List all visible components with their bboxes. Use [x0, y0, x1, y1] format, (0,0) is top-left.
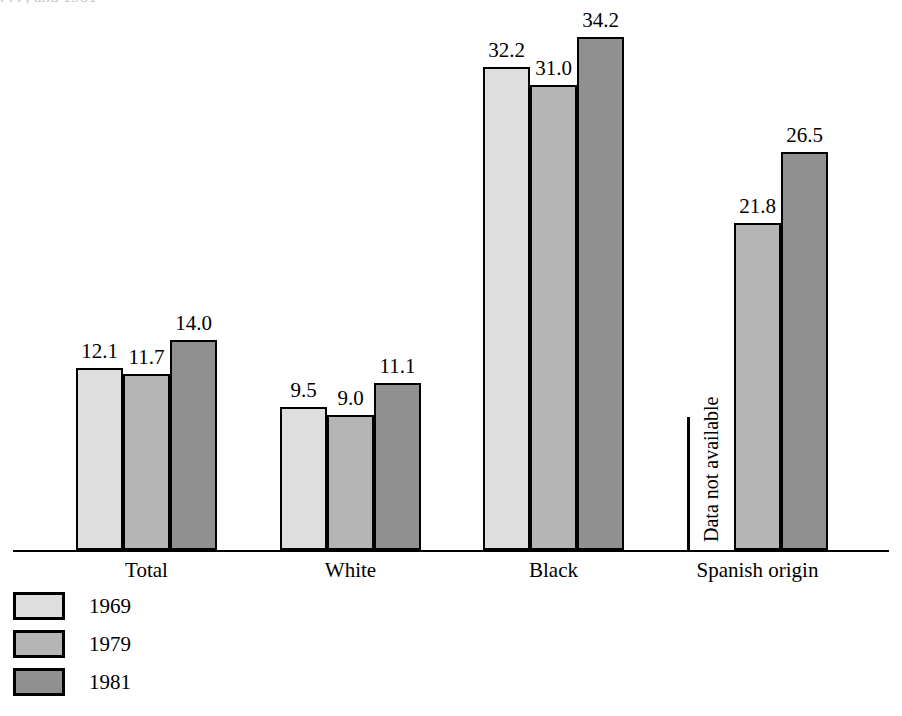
bar-total-1979 [123, 374, 170, 550]
bar-white-1979 [327, 415, 374, 550]
bar-white-1969 [280, 407, 327, 550]
bar-spanish-origin-1981 [781, 152, 828, 550]
bar-value-label: 14.0 [156, 313, 231, 334]
bar-black-1969 [483, 67, 530, 550]
bar-white-1981 [374, 383, 421, 550]
bar-value-label: 11.1 [360, 356, 435, 377]
category-label-black: Black [443, 558, 664, 582]
legend-label-1979: 1979 [89, 631, 131, 657]
category-label-white: White [240, 558, 461, 582]
bar-value-label: 34.2 [563, 10, 638, 31]
bar-black-1979 [530, 85, 577, 550]
legend-label-1969: 1969 [89, 593, 131, 619]
category-label-total: Total [36, 558, 257, 582]
bar-spanish-origin-1979 [734, 223, 781, 550]
bar-total-1981 [170, 340, 217, 550]
plot-area: 12.111.714.0Total9.59.011.1White32.231.0… [0, 0, 902, 716]
category-label-spanish-origin: Spanish origin [647, 558, 868, 582]
legend-swatch-1981 [13, 668, 65, 696]
legend-swatch-1979 [13, 630, 65, 658]
bar-total-1969 [76, 368, 123, 550]
x-axis-baseline [13, 550, 889, 552]
data-not-available-note: Data not available [701, 397, 721, 543]
bar-black-1981 [577, 37, 624, 550]
legend-label-1981: 1981 [89, 669, 131, 695]
bar-value-label: 26.5 [767, 125, 842, 146]
legend-swatch-1969 [13, 592, 65, 620]
bar-chart: . . . , and 1981 12.111.714.0Total9.59.0… [0, 0, 902, 716]
